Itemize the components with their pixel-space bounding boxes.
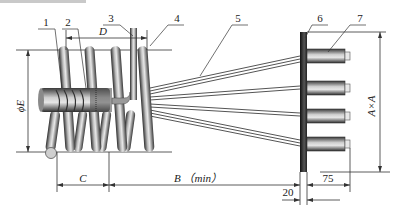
tube-bundle — [150, 56, 300, 146]
svg-text:4: 4 — [174, 12, 180, 24]
dimension-b-min: B （min） — [109, 172, 300, 187]
svg-text:20: 20 — [283, 186, 295, 198]
dimension-c: C — [57, 172, 109, 187]
svg-text:D: D — [98, 25, 107, 37]
svg-text:6: 6 — [317, 12, 323, 24]
part-label-1: 1 — [38, 16, 62, 88]
tube-plate — [300, 32, 307, 172]
svg-text:1: 1 — [43, 16, 49, 28]
svg-text:ϕE: ϕE — [14, 100, 26, 113]
part-label-6: 6 — [305, 12, 328, 38]
svg-text:A×A: A×A — [365, 95, 377, 117]
part-label-4: 4 — [150, 12, 184, 46]
part-label-5: 5 — [200, 12, 248, 76]
part-label-3: 3 — [103, 12, 133, 36]
studs — [307, 49, 350, 151]
svg-text:7: 7 — [357, 12, 363, 24]
dimension-75: 75 — [307, 172, 350, 187]
coil-assembly-diagram: ϕE — [0, 0, 402, 220]
svg-text:5: 5 — [235, 12, 241, 24]
svg-text:75: 75 — [323, 172, 335, 184]
svg-text:2: 2 — [65, 16, 71, 28]
central-shaft — [38, 88, 112, 112]
svg-text:B （min）: B （min） — [174, 172, 222, 184]
svg-text:3: 3 — [108, 12, 114, 24]
dimension-phi-e: ϕE — [14, 50, 30, 152]
svg-text:C: C — [79, 172, 87, 184]
dimension-20: 20 — [282, 186, 340, 202]
